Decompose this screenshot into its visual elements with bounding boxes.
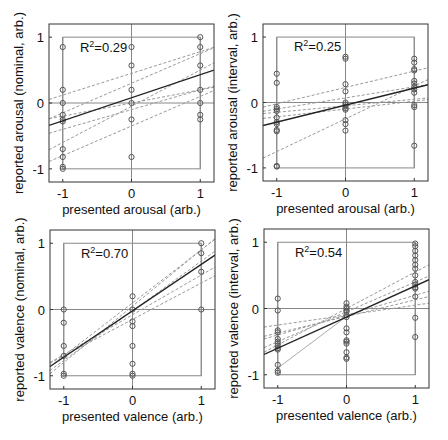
r2-annotation: R2=0.70 (81, 245, 128, 261)
plot-area (263, 24, 428, 181)
x-tick-label: -1 (57, 186, 69, 201)
panel-top-right: -101-101presented arousal (arb.)reported… (225, 13, 428, 216)
y-tick-label: 1 (252, 235, 259, 250)
y-axis-label: reported arousal (interval, arb.) (225, 13, 240, 191)
x-tick-label: 1 (198, 393, 205, 408)
x-tick-label: 0 (343, 392, 350, 407)
plot-area (49, 24, 214, 182)
x-tick-label: 0 (128, 186, 135, 201)
y-axis-label: reported valence (interval, arb.) (226, 218, 241, 399)
panel-top-left: -101-101presented arousal (arb.)reported… (11, 12, 214, 217)
y-tick-label: 0 (37, 96, 44, 111)
r2-annotation: R2=0.29 (80, 39, 127, 55)
y-tick-label: 0 (252, 302, 259, 317)
y-axis-label: reported arousal (nominal, arb.) (11, 12, 26, 194)
x-tick-label: 0 (129, 393, 136, 408)
individual-fit-segment (278, 316, 347, 368)
x-tick-label: -1 (58, 393, 70, 408)
x-axis-label: presented valence (arb.) (276, 408, 417, 423)
plot-area (264, 229, 429, 388)
y-tick-label: 1 (37, 30, 44, 45)
x-tick-label: 1 (411, 185, 418, 200)
y-tick-label: 0 (38, 303, 45, 318)
panel-bottom-left: -101-101presented valence (arb.)reported… (12, 217, 215, 424)
r2-annotation: R2=0.25 (294, 38, 341, 54)
x-tick-label: -1 (271, 185, 283, 200)
x-tick-label: 1 (197, 186, 204, 201)
x-tick-label: -1 (272, 392, 284, 407)
figure-canvas: -101-101presented arousal (arb.)reported… (0, 0, 448, 440)
y-axis-label: reported valence (nominal, arb.) (12, 217, 27, 401)
y-tick-label: 0 (251, 96, 258, 111)
panel-bottom-right: -101-101presented valence (arb.)reported… (226, 218, 429, 423)
y-tick-label: 1 (251, 30, 258, 45)
y-tick-label: -1 (246, 161, 258, 176)
x-axis-label: presented valence (arb.) (62, 409, 203, 424)
x-axis-label: presented arousal (arb.) (62, 202, 201, 217)
plot-area (50, 230, 215, 389)
y-tick-label: -1 (32, 162, 44, 177)
x-tick-label: 0 (342, 185, 349, 200)
x-axis-label: presented arousal (arb.) (276, 201, 415, 216)
x-tick-label: 1 (412, 392, 419, 407)
r2-annotation: R2=0.54 (295, 244, 342, 260)
y-tick-label: 1 (38, 236, 45, 251)
y-tick-label: -1 (33, 369, 45, 384)
y-tick-label: -1 (247, 368, 259, 383)
